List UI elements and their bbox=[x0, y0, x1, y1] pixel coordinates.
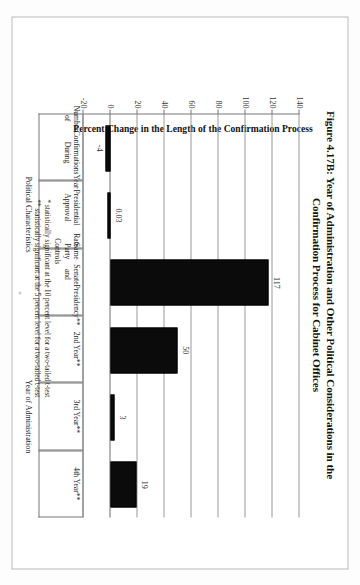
y-tick-mark-100 bbox=[244, 109, 245, 114]
bar-value-label: -4 bbox=[94, 144, 103, 151]
rotated-page: Figure 4.17B: Year of Administration and… bbox=[0, 0, 360, 585]
category-label-cell: Number ofConfirmations DuringYear bbox=[38, 113, 82, 180]
gridline-60 bbox=[190, 114, 191, 517]
y-tick-mark-80 bbox=[217, 109, 218, 114]
gridline-80 bbox=[217, 114, 218, 517]
gridline-100 bbox=[244, 114, 245, 517]
plot-area: 140120100806040200-20-40.0311750319 bbox=[83, 113, 299, 517]
gridline-40 bbox=[163, 114, 164, 517]
y-tick-label: 100 bbox=[241, 96, 250, 108]
gridline-120 bbox=[271, 114, 272, 517]
bar-value-label: 19 bbox=[139, 480, 148, 488]
gridline-140 bbox=[298, 114, 299, 517]
page-title: Figure 4.17B: Year of Administration and… bbox=[309, 37, 337, 552]
footnote: ** statistically significant at the 5 pe… bbox=[31, 199, 41, 529]
category-label-line: Same Party Controls bbox=[52, 238, 80, 264]
y-tick-mark-60 bbox=[190, 109, 191, 114]
bar-value-label: 3 bbox=[117, 415, 126, 419]
y-tick-label: 40 bbox=[160, 100, 169, 108]
gridline-0 bbox=[109, 114, 110, 517]
footnotes: * statistically significant at the 10 pe… bbox=[31, 199, 51, 529]
figure-sheet: Figure 4.17B: Year of Administration and… bbox=[11, 16, 348, 569]
bar-value-label: 50 bbox=[181, 346, 190, 354]
category-label-line: 3rd Year** bbox=[71, 399, 80, 432]
category-label-line: 4th Year** bbox=[71, 467, 80, 500]
chart-plot: Percent Change in the Length of the Conf… bbox=[83, 113, 299, 517]
category-label-line: Confirmations During bbox=[61, 130, 80, 174]
page-frame: Figure 4.17B: Year of Administration and… bbox=[0, 0, 360, 585]
footnote: * statistically significant at the 10 pe… bbox=[41, 199, 51, 529]
y-tick-mark-0 bbox=[109, 109, 110, 114]
y-tick-label: 20 bbox=[133, 100, 142, 108]
page-title-line-2: Confirmation Process for Cabinet Offices bbox=[309, 37, 323, 552]
bar bbox=[110, 461, 136, 507]
category-label-line: Senate and bbox=[61, 264, 80, 284]
bar-value-label: 117 bbox=[271, 276, 280, 288]
bar bbox=[105, 125, 110, 171]
y-tick-label: 120 bbox=[268, 96, 277, 108]
y-tick-label: 0 bbox=[106, 104, 115, 108]
category-label-line: Number of bbox=[61, 105, 80, 130]
page-marker-dot bbox=[18, 291, 21, 294]
y-tick-mark-20 bbox=[136, 109, 137, 114]
bar bbox=[110, 327, 178, 373]
bar bbox=[110, 259, 268, 305]
page-title-line-1: Figure 4.17B: Year of Administration and… bbox=[323, 37, 337, 552]
y-tick-label: 140 bbox=[295, 96, 304, 108]
y-tick-mark-40 bbox=[163, 109, 164, 114]
y-tick-label: 80 bbox=[214, 100, 223, 108]
bar bbox=[110, 394, 114, 440]
gridline-20 bbox=[136, 114, 137, 517]
bar-value-label: 0.03 bbox=[113, 208, 122, 222]
category-label-line: Presidential Approval bbox=[61, 181, 80, 232]
bar bbox=[107, 192, 110, 238]
y-tick-mark-120 bbox=[271, 109, 272, 114]
category-label-line: 2nd Year** bbox=[71, 331, 80, 366]
y-tick-label: 60 bbox=[187, 100, 196, 108]
y-tick-mark-140 bbox=[298, 109, 299, 114]
